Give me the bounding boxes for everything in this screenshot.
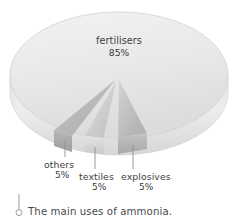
slice-label-textiles: textiles xyxy=(79,171,114,182)
slice-value-textiles: 5% xyxy=(92,182,106,193)
figure-caption: The main uses of ammonia. xyxy=(28,205,172,218)
slice-value-explosives: 5% xyxy=(139,182,153,193)
slice-value-fertilisers: 85% xyxy=(0,47,238,58)
pie-chart-figure: fertilisers 85% others 5% textiles 5% ex… xyxy=(0,0,238,224)
slice-value-others: 5% xyxy=(55,170,69,181)
pie-chart-graphic xyxy=(0,0,238,224)
slice-label-fertilisers: fertilisers xyxy=(0,35,238,46)
caption-marker-icon xyxy=(14,194,24,218)
slice-label-others: others xyxy=(44,159,74,170)
slice-label-explosives: explosives xyxy=(121,171,171,182)
